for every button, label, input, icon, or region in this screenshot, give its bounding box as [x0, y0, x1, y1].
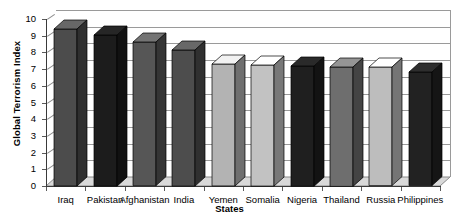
bar-shape-philippines [409, 63, 444, 188]
bar-shape-yemen [212, 55, 247, 188]
bar-nigeria [291, 66, 314, 186]
x-tick-7 [322, 187, 323, 191]
bar-somalia [251, 65, 274, 186]
bar-shape-india [172, 41, 207, 188]
bar-india [172, 50, 195, 186]
y-tick-label-7: 7 [14, 64, 36, 73]
x-tick-6 [282, 187, 283, 191]
y-tick-label-4: 4 [14, 114, 36, 123]
y-tick-label-6: 6 [14, 81, 36, 90]
y-tick-label-5: 5 [14, 98, 36, 107]
y-tick-label-8: 8 [14, 47, 36, 56]
bar-pakistan [94, 35, 117, 186]
bar-yemen [212, 64, 235, 186]
x-tick-4 [204, 187, 205, 191]
y-tick-label-2: 2 [14, 148, 36, 157]
y-tick-label-1: 1 [14, 164, 36, 173]
y-tick-label-9: 9 [14, 31, 36, 40]
x-tick-3 [164, 187, 165, 191]
bar-afghanistan [133, 42, 156, 186]
x-axis-label-philippines: Philippines [395, 195, 446, 205]
x-tick-0 [46, 187, 47, 191]
bar-shape-iraq [54, 20, 89, 188]
bar-chart: Global Terrorism Index States 0123456789… [0, 0, 459, 221]
y-tick-label-3: 3 [14, 131, 36, 140]
y-axis-title: Global Terrorism Index [11, 24, 22, 164]
bar-shape-russia [369, 58, 404, 188]
x-tick-9 [401, 187, 402, 191]
x-tick-10 [440, 187, 441, 191]
bar-philippines [409, 72, 432, 186]
bar-shape-thailand [330, 58, 365, 188]
y-tick-label-0: 0 [14, 181, 36, 190]
y-axis-line [46, 19, 47, 187]
gridline-10 [56, 10, 450, 11]
bar-thailand [330, 67, 353, 186]
bar-shape-afghanistan [133, 33, 168, 188]
bar-shape-pakistan [94, 26, 129, 188]
x-tick-2 [125, 187, 126, 191]
y-tick-label-10: 10 [14, 14, 36, 23]
x-tick-5 [243, 187, 244, 191]
backwall-right-edge [450, 10, 451, 177]
bar-shape-somalia [251, 56, 286, 188]
bar-iraq [54, 29, 77, 186]
x-tick-8 [361, 187, 362, 191]
bar-russia [369, 67, 392, 186]
bar-shape-nigeria [291, 57, 326, 188]
x-tick-1 [85, 187, 86, 191]
